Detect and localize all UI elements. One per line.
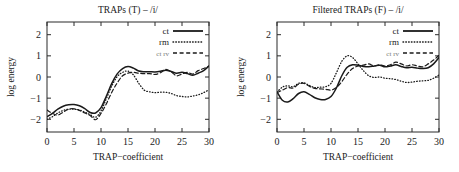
plot-frame: [277, 22, 439, 132]
chart-title: TRAPs (T) – /i/: [98, 5, 158, 16]
y-tick-label: −2: [30, 114, 41, 125]
y-tick-label: 0: [36, 72, 41, 83]
x-tick-label: 20: [150, 136, 160, 147]
x-tick-label: 0: [45, 136, 50, 147]
chart-svg: TRAPs (T) – /i/051015202530210−1−2TRAP−c…: [0, 0, 229, 172]
x-axis-label: TRAP−coefficient: [323, 152, 393, 162]
legend-label-rm: rm: [389, 37, 399, 47]
legend-label-ct: ct: [393, 26, 400, 36]
chart-legend: ctrmct rv: [386, 26, 433, 58]
x-tick-label: 10: [326, 136, 336, 147]
series-line-rm: [277, 56, 439, 93]
series-line-rm: [47, 71, 209, 119]
y-tick-label: 2: [266, 29, 271, 40]
x-tick-label: 20: [380, 136, 390, 147]
legend-label-ct-rv: ct rv: [156, 50, 169, 58]
series-line-ct-rv: [47, 66, 209, 120]
x-tick-label: 5: [302, 136, 307, 147]
x-tick-label: 30: [434, 136, 444, 147]
figure-root: TRAPs (T) – /i/051015202530210−1−2TRAP−c…: [0, 0, 459, 172]
chart-title: Filtered TRAPs (F) – /i/: [312, 5, 403, 16]
x-tick-label: 25: [177, 136, 187, 147]
x-tick-label: 25: [407, 136, 417, 147]
chart-legend: ctrmct rv: [156, 26, 203, 58]
y-tick-label: 0: [266, 72, 271, 83]
x-tick-label: 5: [72, 136, 77, 147]
y-axis-label: log energy: [236, 57, 246, 97]
x-tick-label: 15: [123, 136, 133, 147]
x-tick-label: 0: [275, 136, 280, 147]
x-tick-label: 15: [353, 136, 363, 147]
y-axis-label: log energy: [6, 57, 16, 97]
x-tick-label: 10: [96, 136, 106, 147]
chart-svg: Filtered TRAPs (F) – /i/051015202530210−…: [230, 0, 459, 172]
x-axis-label: TRAP−coefficient: [93, 152, 163, 162]
series-group: [277, 55, 439, 102]
y-tick-label: −1: [260, 93, 271, 104]
y-tick-label: 1: [36, 50, 41, 61]
legend-label-rm: rm: [159, 37, 169, 47]
plot-frame: [47, 22, 209, 132]
legend-label-ct-rv: ct rv: [386, 50, 399, 58]
y-tick-label: −2: [260, 114, 271, 125]
x-tick-label: 30: [204, 136, 214, 147]
series-group: [47, 66, 209, 120]
series-line-ct-rv: [277, 55, 439, 92]
y-tick-label: −1: [30, 93, 41, 104]
legend-label-ct: ct: [163, 26, 170, 36]
y-tick-label: 1: [266, 50, 271, 61]
chart-panel-right: Filtered TRAPs (F) – /i/051015202530210−…: [230, 0, 459, 172]
y-tick-label: 2: [36, 29, 41, 40]
chart-panel-left: TRAPs (T) – /i/051015202530210−1−2TRAP−c…: [0, 0, 229, 172]
